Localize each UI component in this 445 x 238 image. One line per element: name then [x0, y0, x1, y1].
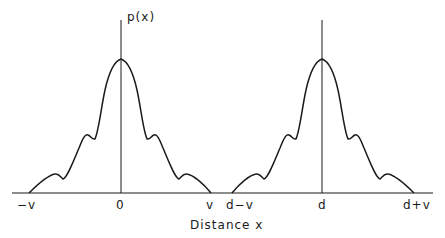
x-axis-title: Distance x — [190, 218, 263, 232]
distribution-plot — [0, 0, 445, 238]
diagram-canvas: p(x) −v 0 v d−v d d+v Distance x — [0, 0, 445, 238]
curve-centered-at-d — [232, 59, 414, 193]
tick-label-d-plus-v: d+v — [403, 198, 431, 212]
y-axis-label: p(x) — [127, 10, 155, 24]
tick-label-d: d — [318, 198, 327, 212]
tick-label-zero: 0 — [116, 198, 125, 212]
tick-label-v: v — [206, 198, 214, 212]
curve-centered-at-0 — [29, 59, 211, 193]
tick-label-minus-v: −v — [17, 198, 36, 212]
tick-label-d-minus-v: d−v — [226, 198, 254, 212]
